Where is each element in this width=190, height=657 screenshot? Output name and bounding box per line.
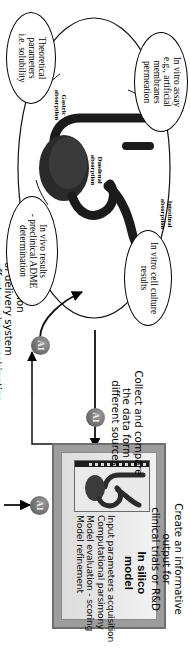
prediction-caption-line-3: effect on pharmacokinetics <box>0 262 3 442</box>
output-caption-line-3: clinical trials or R&D <box>149 470 161 648</box>
in-silico-model-bullets: Input parameters acquisition Computation… <box>75 515 116 615</box>
panel-to-prediction-connector <box>32 396 56 444</box>
ai-badge-prediction: AI <box>31 336 50 355</box>
intestinal-tag-line-2: absorption <box>160 186 167 242</box>
model-bullet-3: Model evaluation - scoring <box>85 515 95 615</box>
model-bullet-1: Input parameters acquisition <box>106 515 116 615</box>
ellipse-in-vitro-cell-culture-results: In vitro cell culture results <box>124 230 172 326</box>
model-bullet-4: Model refinement <box>75 515 85 615</box>
model-title-line-2: model <box>122 513 135 633</box>
theoretical-line-2: parameters <box>26 33 36 82</box>
ai-badge-collect: AI <box>86 408 105 427</box>
output-caption-line-2: output for <box>161 470 173 648</box>
figure-canvas: In silico model Input parameters acquisi… <box>0 0 190 657</box>
ellipse-label-cell-culture: In vitro cell culture results <box>125 231 171 325</box>
intestinal-absorption-tag: Intestinal absorption <box>160 186 174 242</box>
figure-rotator: In silico model Input parameters acquisi… <box>0 0 190 657</box>
ellipse-label-in-vitro-assay: In vitro assay e.g., artificial membrane… <box>135 33 187 131</box>
model-bullet-2: Computational parsimony <box>95 515 105 615</box>
ellipse-label-theoretical-parameters: Theoretical parameters i.e. solubility <box>7 13 55 103</box>
collect-caption: Collect and compare the data form differ… <box>109 348 144 498</box>
ellipse-in-vitro-assay: In vitro assay e.g., artificial membrane… <box>134 32 188 132</box>
invitroassay-line-1: In vitro assay <box>171 57 181 108</box>
theoretical-line-3: i.e. solubility <box>16 33 26 82</box>
invitroassay-line-3: membranes <box>151 57 161 108</box>
cellculture-line-1: In vitro cell culture <box>148 242 158 314</box>
ellipse-label-in-vivo-results: In vivo results - preclinical ADME deter… <box>7 197 57 305</box>
ellipse-theoretical-parameters: Theoretical parameters i.e. solubility <box>6 12 56 104</box>
collect-caption-line-1: Collect and compare <box>132 348 144 498</box>
output-caption-line-1: Create an informative <box>172 470 184 648</box>
duodenal-absorption-tag: Duodenal absorption <box>90 142 104 198</box>
gastric-absorption-tag: Gastric absorption <box>54 78 68 132</box>
ellipse-in-vivo-results: In vivo results - preclinical ADME deter… <box>6 196 58 306</box>
duodenal-tag-line-1: Duodenal <box>97 142 104 198</box>
collect-caption-line-2: the data form <box>121 348 133 498</box>
invitroassay-line-2: e.g., artificial <box>161 57 171 108</box>
in-silico-model-title: In silico model <box>122 513 148 633</box>
output-caption: Create an informative output for clinica… <box>149 470 184 648</box>
model-title-line-1: In silico <box>135 513 148 633</box>
cellculture-line-2: results <box>138 242 148 314</box>
ai-badge-output: AI <box>30 496 49 515</box>
invitroassay-line-4: permeation <box>141 57 151 108</box>
theoretical-line-1: Theoretical <box>36 33 46 82</box>
gastric-tag-line-1: Gastric <box>61 78 68 132</box>
intestinal-tag-line-1: Intestinal <box>167 186 174 242</box>
gastric-tag-line-2: absorption <box>54 78 61 132</box>
collect-caption-line-3: different sources <box>109 348 121 498</box>
invivo-line-3: determination <box>17 214 27 288</box>
duodenal-tag-line-2: absorption <box>90 142 97 198</box>
invivo-line-2: - preclinical ADME <box>27 214 37 288</box>
invivo-line-1: In vivo results <box>37 214 47 288</box>
